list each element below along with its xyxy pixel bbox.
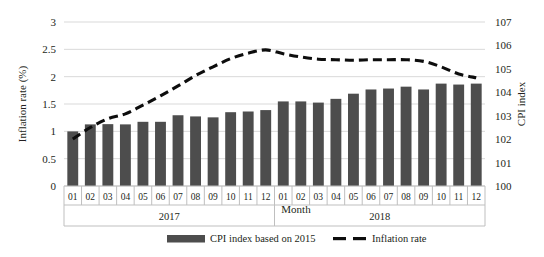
bar xyxy=(155,122,166,186)
bar xyxy=(67,131,78,186)
bar xyxy=(366,89,377,186)
right-axis-title: CPI index xyxy=(515,81,527,126)
bar xyxy=(436,84,447,186)
chart-canvas: 00.511.522.53 100101102103104105106107 I… xyxy=(0,0,544,257)
year-label: 2017 xyxy=(159,211,180,222)
bar xyxy=(313,103,324,186)
bar xyxy=(260,110,271,186)
right-tick-label: 104 xyxy=(495,86,512,98)
bar xyxy=(383,89,394,186)
month-label: 09 xyxy=(208,192,218,202)
month-label: 10 xyxy=(226,192,236,202)
left-tick-label: 0 xyxy=(51,180,57,192)
bar xyxy=(453,85,464,186)
month-label: 03 xyxy=(103,192,113,202)
bar xyxy=(295,101,306,186)
left-axis-title: Inflation rate (%) xyxy=(16,65,29,142)
right-tick-label: 103 xyxy=(495,110,512,122)
right-tick-label: 107 xyxy=(495,16,512,28)
month-label: 05 xyxy=(138,192,148,202)
month-label: 06 xyxy=(156,192,166,202)
month-label: 03 xyxy=(314,192,324,202)
month-label: 04 xyxy=(121,192,131,202)
cpi-inflation-chart: 00.511.522.53 100101102103104105106107 I… xyxy=(0,0,544,257)
bar xyxy=(243,111,254,186)
left-tick-label: 1.5 xyxy=(42,98,56,110)
month-label: 10 xyxy=(436,192,446,202)
right-tick-label: 101 xyxy=(495,157,512,169)
left-tick-label: 3 xyxy=(51,16,57,28)
bar xyxy=(348,94,359,186)
month-label: 08 xyxy=(191,192,201,202)
month-label: 12 xyxy=(261,192,271,202)
bar xyxy=(418,89,429,186)
month-label: 07 xyxy=(384,192,394,202)
bar xyxy=(120,124,131,186)
bar xyxy=(208,117,219,186)
left-tick-label: 1 xyxy=(51,125,57,137)
right-tick-label: 105 xyxy=(495,63,512,75)
legend-bar-swatch-icon xyxy=(167,235,205,243)
month-label: 09 xyxy=(419,192,429,202)
month-label: 11 xyxy=(454,192,463,202)
month-label: 01 xyxy=(68,192,78,202)
bar xyxy=(278,101,289,186)
month-label: 04 xyxy=(331,192,341,202)
bar xyxy=(137,122,148,186)
month-label: 07 xyxy=(173,192,183,202)
month-label: 11 xyxy=(244,192,253,202)
month-label: 01 xyxy=(279,192,289,202)
month-label: 02 xyxy=(86,192,96,202)
month-label: 05 xyxy=(349,192,359,202)
bar xyxy=(190,116,201,186)
month-label: 06 xyxy=(366,192,376,202)
month-label: 02 xyxy=(296,192,306,202)
bar xyxy=(85,124,96,186)
year-label: 2018 xyxy=(369,211,390,222)
bar xyxy=(225,112,236,186)
bar xyxy=(173,115,184,186)
bar xyxy=(102,124,113,186)
legend-label-cpi: CPI index based on 2015 xyxy=(210,233,316,244)
left-tick-label: 0.5 xyxy=(42,153,56,165)
x-axis-title: Month xyxy=(281,203,311,215)
left-tick-label: 2 xyxy=(51,71,57,83)
bar xyxy=(401,87,412,186)
month-label: 12 xyxy=(471,192,481,202)
month-label: 08 xyxy=(401,192,411,202)
legend-label-inflation: Inflation rate xyxy=(372,233,427,244)
right-tick-label: 100 xyxy=(495,180,512,192)
bar xyxy=(330,99,341,186)
left-tick-label: 2.5 xyxy=(42,43,56,55)
bar xyxy=(471,84,482,186)
right-tick-label: 102 xyxy=(495,133,512,145)
right-tick-label: 106 xyxy=(495,39,512,51)
